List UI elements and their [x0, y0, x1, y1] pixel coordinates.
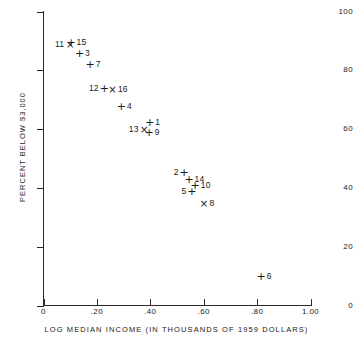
x-tick-label: 0	[24, 308, 64, 316]
x-tick-mark	[150, 299, 151, 306]
data-point-marker-16: ×	[108, 84, 116, 95]
x-tick-mark	[311, 299, 312, 306]
y-axis-line	[43, 11, 44, 306]
data-point-label-4: 4	[127, 101, 132, 110]
data-point-label-1: 1	[155, 117, 160, 126]
x-axis-line	[43, 305, 311, 306]
x-tick-label: .40	[130, 308, 170, 316]
data-point-marker-5: +	[187, 185, 196, 196]
data-point-label-13: 13	[129, 125, 139, 134]
x-tick-mark	[257, 299, 258, 306]
x-axis-title: LOG MEDIAN INCOME (IN THOUSANDS OF 1959 …	[0, 325, 353, 334]
data-point-marker-4: +	[117, 100, 126, 111]
y-tick-mark	[37, 12, 44, 13]
data-point-label-12: 12	[89, 83, 99, 92]
x-tick-label: .60	[184, 308, 224, 316]
data-point-label-7: 7	[96, 60, 101, 69]
x-tick-label: 1.00	[291, 308, 331, 316]
y-tick-label: 20	[323, 243, 353, 251]
scatter-plot-figure: 020406080100 0.20.40.60.801.00 ×11+15+3+…	[0, 0, 353, 343]
data-point-label-10: 10	[201, 180, 211, 189]
y-tick-mark	[37, 70, 44, 71]
x-tick-mark	[44, 299, 45, 306]
data-point-label-3: 3	[85, 48, 90, 57]
data-point-label-2: 2	[174, 167, 179, 176]
data-point-marker-7: +	[86, 59, 95, 70]
y-tick-label: 40	[323, 184, 353, 192]
data-point-label-11: 11	[55, 39, 64, 48]
y-tick-mark	[37, 129, 44, 130]
y-tick-mark	[37, 188, 44, 189]
x-tick-mark	[204, 299, 205, 306]
data-point-label-8: 8	[209, 198, 214, 207]
data-point-marker-6: +	[256, 271, 265, 282]
data-point-label-6: 6	[267, 272, 272, 281]
data-point-marker-3: +	[75, 47, 84, 58]
y-tick-mark	[37, 247, 44, 248]
x-tick-label: .80	[237, 308, 277, 316]
data-point-label-5: 5	[181, 186, 186, 195]
x-tick-label: .20	[77, 308, 117, 316]
data-point-label-16: 16	[118, 85, 128, 94]
y-tick-label: 100	[323, 8, 353, 16]
data-point-marker-9: +	[145, 127, 154, 138]
y-axis-title: PERCENT BELOW $3,000	[19, 72, 27, 222]
data-point-marker-8: ×	[200, 197, 208, 208]
data-point-label-9: 9	[155, 128, 160, 137]
y-tick-label: 60	[323, 125, 353, 133]
x-tick-mark	[97, 299, 98, 306]
y-tick-label: 80	[323, 66, 353, 74]
